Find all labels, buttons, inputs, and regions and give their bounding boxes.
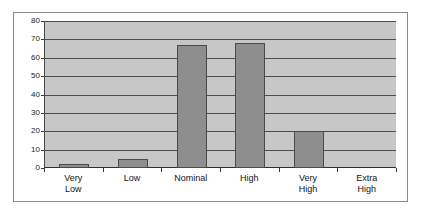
x-axis-label-line: High [220, 173, 279, 184]
bar-slot [104, 21, 163, 168]
bar-slot [162, 21, 221, 168]
y-tick-label-50: 50 [31, 72, 40, 80]
y-tick-mark-50 [41, 76, 44, 77]
bar-slot [45, 21, 104, 168]
y-tick-label-10: 10 [31, 146, 40, 154]
bar-low[interactable] [118, 159, 148, 168]
x-tick-mark-1 [103, 168, 104, 172]
x-axis-label-high: High [220, 173, 279, 184]
y-tick-mark-80 [41, 21, 44, 22]
bar-slot [280, 21, 339, 168]
bar-nominal[interactable] [177, 45, 207, 168]
y-tick-mark-60 [41, 58, 44, 59]
bar-high[interactable] [235, 43, 265, 168]
x-axis-label-line: High [279, 184, 338, 195]
x-axis-label-line: High [337, 184, 396, 195]
x-axis-label-line: Nominal [161, 173, 220, 184]
y-tick-mark-70 [41, 39, 44, 40]
y-tick-label-70: 70 [31, 35, 40, 43]
bar-very-high[interactable] [294, 131, 324, 168]
y-tick-label-80: 80 [31, 17, 40, 25]
y-tick-label-40: 40 [31, 91, 40, 99]
x-axis-label-line: Very [279, 173, 338, 184]
x-tick-mark-6 [396, 168, 397, 172]
bar-slot [338, 21, 397, 168]
y-tick-label-60: 60 [31, 54, 40, 62]
x-tick-mark-2 [161, 168, 162, 172]
x-axis-label-very-low: VeryLow [44, 173, 103, 195]
x-axis-label-line: Extra [337, 173, 396, 184]
x-axis-label-nominal: Nominal [161, 173, 220, 184]
y-tick-label-30: 30 [31, 109, 40, 117]
x-tick-mark-3 [220, 168, 221, 172]
y-tick-label-20: 20 [31, 127, 40, 135]
plot-area [44, 21, 396, 168]
bar-slot [221, 21, 280, 168]
x-axis-label-low: Low [103, 173, 162, 184]
y-tick-mark-30 [41, 113, 44, 114]
x-tick-mark-4 [279, 168, 280, 172]
y-tick-label-0: 0 [36, 164, 40, 172]
x-axis-label-very-high: VeryHigh [279, 173, 338, 195]
x-axis-label-extra-high: ExtraHigh [337, 173, 396, 195]
x-tick-mark-0 [44, 168, 45, 172]
bar-chart-figure: 01020304050607080 VeryLowLowNominalHighV… [13, 12, 408, 202]
y-tick-mark-40 [41, 95, 44, 96]
y-tick-mark-10 [41, 150, 44, 151]
x-axis-label-line: Very [44, 173, 103, 184]
y-tick-mark-20 [41, 131, 44, 132]
plot-wrapper: 01020304050607080 [44, 21, 396, 168]
x-axis-label-line: Low [103, 173, 162, 184]
x-axis-label-line: Low [44, 184, 103, 195]
bars-layer [45, 21, 396, 168]
x-axis-ticks [44, 168, 396, 172]
x-axis-labels: VeryLowLowNominalHighVeryHighExtraHigh [44, 173, 396, 203]
x-tick-mark-5 [337, 168, 338, 172]
